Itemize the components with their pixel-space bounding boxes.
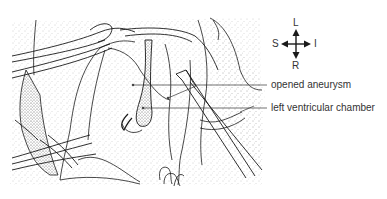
compass-label-right: I (314, 38, 317, 49)
compass-label-top: L (293, 17, 299, 28)
label-opened-aneurysm: opened aneurysm (271, 79, 351, 91)
arrow-right-icon (304, 41, 311, 48)
label-left-ventricular-chamber: left ventricular chamber (271, 102, 375, 114)
arrow-down-icon (293, 52, 300, 59)
arrow-up-icon (293, 29, 300, 36)
arrow-left-icon (281, 41, 288, 48)
surgical-illustration (0, 0, 387, 199)
orientation-compass (281, 29, 311, 59)
compass-label-left: S (272, 38, 279, 49)
compass-label-bottom: R (292, 60, 299, 71)
